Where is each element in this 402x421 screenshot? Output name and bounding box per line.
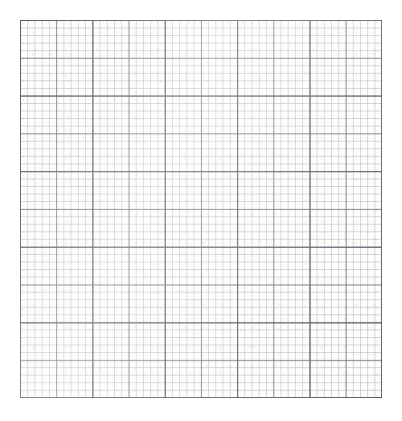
page-root	[0, 0, 402, 421]
graph-paper-sheet	[20, 20, 382, 398]
scan-texture-overlay	[20, 20, 382, 398]
sheet-bottom-rule	[20, 397, 382, 398]
fine-grid-layer	[20, 20, 382, 398]
major-grid-layer	[20, 20, 382, 398]
medium-grid-layer	[20, 20, 382, 398]
sheet-right-rule	[381, 20, 382, 398]
scan-illumination-overlay	[20, 20, 382, 398]
